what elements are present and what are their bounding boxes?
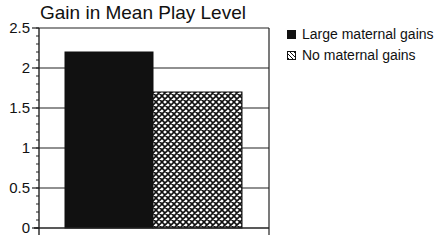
legend-label: No maternal gains xyxy=(302,47,416,63)
legend-label: Large maternal gains xyxy=(302,26,434,42)
solid-square-icon xyxy=(287,30,296,39)
y-tick-label: 1.5 xyxy=(9,99,30,116)
y-tick-label: 0.5 xyxy=(9,179,30,196)
bar-no-maternal-gains xyxy=(153,92,242,228)
bar-large-maternal-gains xyxy=(65,52,153,228)
y-tick-label: 1 xyxy=(22,139,30,156)
crosshatch-square-icon xyxy=(287,51,296,60)
y-tick-label: 2 xyxy=(22,59,30,76)
chart-title: Gain in Mean Play Level xyxy=(40,2,246,24)
y-tick-label: 2.5 xyxy=(9,19,30,36)
y-tick-label: 0 xyxy=(22,219,30,236)
plot-area: 00.511.522.5 xyxy=(9,19,269,236)
